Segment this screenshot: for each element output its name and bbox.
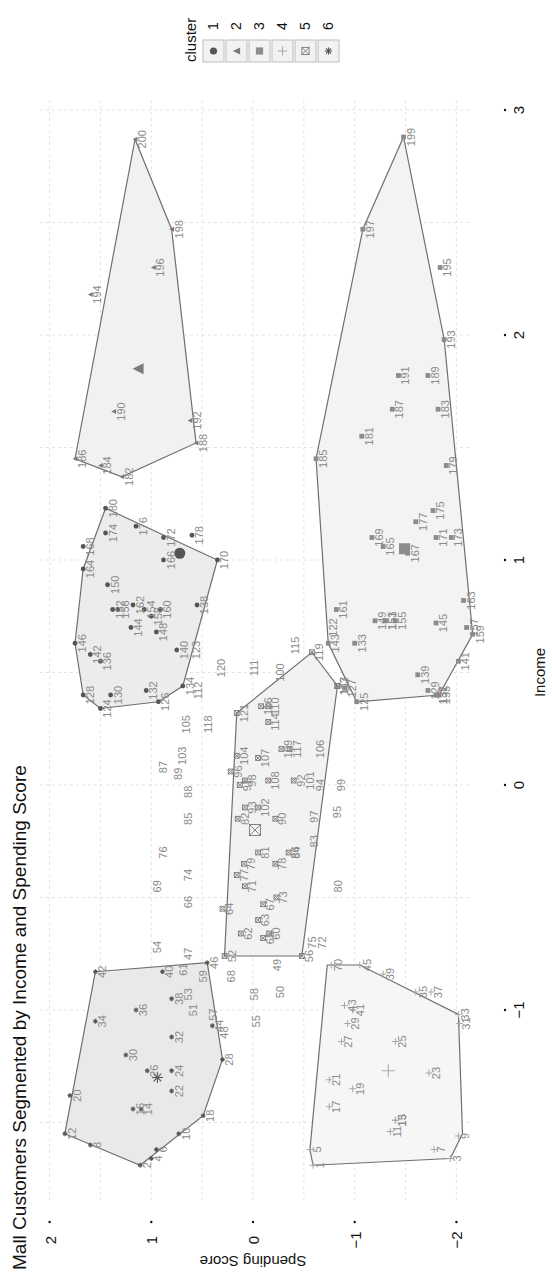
point-label: 18 bbox=[204, 1110, 216, 1122]
point-label: 182 bbox=[123, 468, 135, 486]
point-label: 37 bbox=[432, 986, 444, 998]
point-label: 30 bbox=[127, 1049, 139, 1061]
point-label: 78 bbox=[276, 858, 288, 870]
point-label: 191 bbox=[399, 366, 411, 384]
point-label: 121 bbox=[238, 704, 250, 722]
point-label: 89 bbox=[172, 768, 184, 780]
point-label: 193 bbox=[445, 330, 457, 348]
point-label: 34 bbox=[96, 1015, 108, 1027]
point-label: 175 bbox=[434, 501, 446, 519]
point-label: 177 bbox=[417, 513, 429, 531]
point-label: 21 bbox=[330, 1074, 342, 1086]
spending-tick-mark bbox=[354, 1221, 356, 1223]
point-label: 168 bbox=[84, 537, 96, 555]
point-label: 88 bbox=[182, 786, 194, 798]
point-label: 79 bbox=[245, 858, 257, 870]
point-label: 76 bbox=[157, 846, 169, 858]
point-label: 105 bbox=[180, 715, 192, 733]
point-label: 185 bbox=[317, 450, 329, 468]
legend-label: 5 bbox=[297, 22, 313, 30]
point-label: 68 bbox=[225, 970, 237, 982]
point-label: 167 bbox=[409, 544, 421, 562]
point-label: 58 bbox=[248, 988, 260, 1000]
point-label: 166 bbox=[165, 551, 177, 569]
spending-tick-mark bbox=[252, 1221, 254, 1223]
point-label: 104 bbox=[238, 747, 250, 765]
point-label: 85 bbox=[182, 813, 194, 825]
point-label: 29 bbox=[349, 1017, 361, 1029]
point-label: 139 bbox=[419, 666, 431, 684]
income-tick-mark bbox=[504, 109, 506, 111]
point-label: 17 bbox=[330, 1101, 342, 1113]
point-label: 156 bbox=[119, 600, 131, 618]
legend-label: 2 bbox=[228, 22, 244, 30]
legend: cluster123456 bbox=[182, 18, 339, 62]
spending-tick-label: −1 bbox=[347, 1231, 364, 1248]
point-label: 165 bbox=[384, 537, 396, 555]
spending-tick-label: 0 bbox=[245, 1236, 262, 1244]
legend-label: 6 bbox=[320, 22, 336, 30]
income-tick-label: −1 bbox=[510, 1001, 527, 1018]
spending-tick-label: 2 bbox=[42, 1236, 59, 1244]
spending-tick-mark bbox=[48, 1221, 50, 1223]
point-label: 197 bbox=[364, 220, 376, 238]
point-label: 179 bbox=[447, 456, 459, 474]
point-label: 169 bbox=[373, 528, 385, 546]
point-label: 80 bbox=[332, 880, 344, 892]
point-label: 174 bbox=[107, 524, 119, 542]
point-label: 96 bbox=[232, 765, 244, 777]
legend-circle-icon bbox=[210, 47, 217, 54]
point-label: 56 bbox=[303, 950, 315, 962]
point-label: 103 bbox=[176, 747, 188, 765]
point-label: 74 bbox=[182, 869, 194, 881]
point-label: 8 bbox=[91, 1142, 103, 1148]
point-label: 97 bbox=[308, 810, 320, 822]
point-label: 173 bbox=[452, 528, 464, 546]
point-label: 7 bbox=[435, 1146, 447, 1152]
point-label: 26 bbox=[148, 1065, 160, 1077]
point-label: 43 bbox=[346, 999, 358, 1011]
point-label: 122 bbox=[327, 618, 339, 636]
point-label: 161 bbox=[337, 600, 349, 618]
point-label: 25 bbox=[396, 1035, 408, 1047]
spending-tick-label: 1 bbox=[143, 1236, 160, 1244]
point-label: 99 bbox=[335, 779, 347, 791]
point-label: 146 bbox=[76, 634, 88, 652]
point-label: 117 bbox=[291, 740, 303, 758]
point-label: 140 bbox=[178, 641, 190, 659]
point-label: 55 bbox=[250, 1015, 262, 1027]
point-label: 52 bbox=[226, 950, 238, 962]
point-label: 57 bbox=[207, 1008, 219, 1020]
point-label: 54 bbox=[151, 941, 163, 953]
spending-tick-label: −2 bbox=[448, 1231, 465, 1248]
point-label: 164 bbox=[84, 560, 96, 578]
point-label: 142 bbox=[91, 645, 103, 663]
legend-square-icon bbox=[256, 47, 263, 54]
point-label: 53 bbox=[182, 988, 194, 1000]
point-label: 101 bbox=[304, 771, 316, 789]
point-label: 24 bbox=[173, 1065, 185, 1077]
spending-tick-mark bbox=[455, 1221, 457, 1223]
point-label: 116 bbox=[262, 697, 274, 715]
point-label: 66 bbox=[182, 896, 194, 908]
point-label: 132 bbox=[147, 681, 159, 699]
spending-axis-title: Spending Score bbox=[200, 1253, 307, 1270]
point-label: 170 bbox=[218, 551, 230, 569]
point-label: 190 bbox=[115, 402, 127, 420]
point-label: 199 bbox=[405, 128, 417, 146]
point-label: 187 bbox=[393, 400, 405, 418]
point-label: 200 bbox=[136, 130, 148, 148]
point-label: 20 bbox=[71, 1089, 83, 1101]
point-label: 70 bbox=[332, 959, 344, 971]
point-label: 93 bbox=[246, 801, 258, 813]
point-label: 45 bbox=[361, 959, 373, 971]
point-label: 195 bbox=[441, 258, 453, 276]
legend-label: 4 bbox=[274, 22, 290, 30]
point-label: 49 bbox=[271, 959, 283, 971]
income-tick-label: 0 bbox=[510, 781, 527, 789]
point-label: 162 bbox=[134, 596, 146, 614]
point-label: 5 bbox=[311, 1146, 323, 1152]
point-label: 130 bbox=[112, 686, 124, 704]
point-label: 46 bbox=[208, 957, 220, 969]
income-tick-mark bbox=[504, 334, 506, 336]
